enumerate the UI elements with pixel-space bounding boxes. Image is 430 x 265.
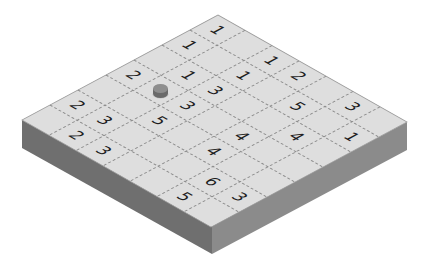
puzzle-stage: 11231151134234542363235 bbox=[0, 0, 430, 265]
cells-layer[interactable] bbox=[22, 15, 407, 227]
board-top: 11231151134234542363235 bbox=[22, 15, 407, 227]
isometric-board: 11231151134234542363235 bbox=[0, 0, 430, 265]
token-top[interactable] bbox=[153, 84, 168, 93]
cylinder-token-icon bbox=[153, 84, 169, 99]
